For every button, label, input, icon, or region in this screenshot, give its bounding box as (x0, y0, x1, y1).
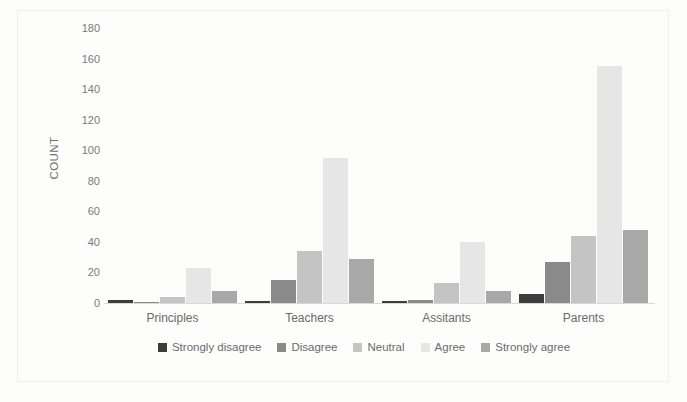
bar-group (241, 28, 378, 303)
chart-legend: Strongly disagreeDisagreeNeutralAgreeStr… (104, 341, 624, 353)
x-axis-category-label: Parents (515, 311, 652, 325)
bar-group (104, 28, 241, 303)
y-axis-tick-label: 140 (60, 83, 100, 95)
legend-item[interactable]: Strongly disagree (158, 341, 262, 353)
legend-swatch-icon (353, 343, 362, 352)
legend-label: Agree (435, 341, 466, 353)
legend-item[interactable]: Neutral (353, 341, 404, 353)
y-axis-tick-label: 120 (60, 114, 100, 126)
x-axis-category-label: Teachers (241, 311, 378, 325)
bar[interactable] (245, 301, 270, 303)
y-axis-tick-label: 80 (60, 175, 100, 187)
x-axis-line (104, 303, 655, 304)
bar[interactable] (212, 291, 237, 303)
legend-swatch-icon (277, 343, 286, 352)
bar[interactable] (323, 158, 348, 303)
bar[interactable] (186, 268, 211, 303)
y-axis-tick-label: 160 (60, 53, 100, 65)
bar[interactable] (460, 242, 485, 303)
bar[interactable] (623, 230, 648, 303)
x-axis-category-label: Principles (104, 311, 241, 325)
bar[interactable] (271, 280, 296, 303)
bar[interactable] (486, 291, 511, 303)
bar-group-bars (378, 28, 515, 303)
bar[interactable] (160, 297, 185, 303)
bar-group-bars (515, 28, 652, 303)
legend-swatch-icon (481, 343, 490, 352)
bar-group (378, 28, 515, 303)
chart-figure: COUNT 020406080100120140160180 Strongly … (0, 0, 687, 402)
bar[interactable] (297, 251, 322, 303)
bar[interactable] (597, 66, 622, 303)
legend-swatch-icon (158, 343, 167, 352)
y-axis-tick-label: 100 (60, 144, 100, 156)
legend-label: Disagree (291, 341, 337, 353)
bar-group-bars (104, 28, 241, 303)
bar[interactable] (134, 302, 159, 303)
bar[interactable] (408, 300, 433, 303)
bar[interactable] (571, 236, 596, 303)
legend-label: Neutral (367, 341, 404, 353)
legend-label: Strongly disagree (172, 341, 262, 353)
legend-label: Strongly agree (495, 341, 570, 353)
bar[interactable] (108, 300, 133, 303)
bar[interactable] (519, 294, 544, 303)
x-axis-category-label: Assitants (378, 311, 515, 325)
bar-group-bars (241, 28, 378, 303)
y-axis-tick-label: 20 (60, 266, 100, 278)
y-axis-ticks: 020406080100120140160180 (58, 0, 100, 402)
bar-group (515, 28, 652, 303)
bar[interactable] (382, 301, 407, 303)
bar[interactable] (349, 259, 374, 303)
y-axis-tick-label: 60 (60, 205, 100, 217)
legend-item[interactable]: Agree (421, 341, 466, 353)
plot-area (104, 28, 652, 303)
y-axis-tick-label: 40 (60, 236, 100, 248)
bar-chart: COUNT 020406080100120140160180 Strongly … (0, 0, 687, 402)
bar[interactable] (545, 262, 570, 303)
y-axis-tick-label: 180 (60, 22, 100, 34)
y-axis-tick-label: 0 (60, 297, 100, 309)
legend-swatch-icon (421, 343, 430, 352)
bar[interactable] (434, 283, 459, 303)
legend-item[interactable]: Strongly agree (481, 341, 570, 353)
legend-item[interactable]: Disagree (277, 341, 337, 353)
